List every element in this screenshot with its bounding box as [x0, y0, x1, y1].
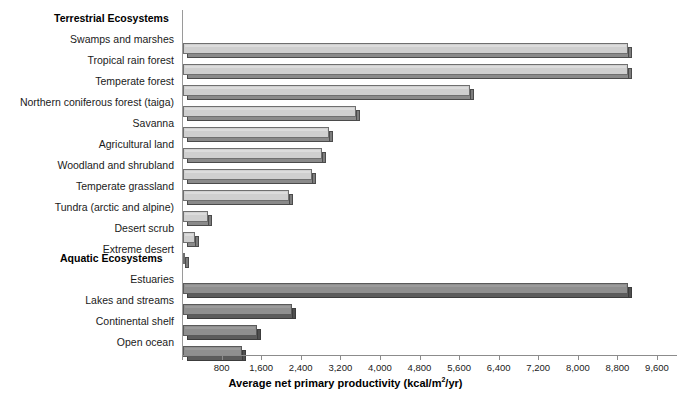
bar-highlight: [185, 234, 193, 236]
x-tick: [578, 355, 579, 360]
bar-highlight: [185, 306, 290, 308]
bar-front-face: [183, 211, 208, 222]
x-tick: [261, 355, 262, 360]
bar-front-face: [183, 85, 470, 96]
category-label: Temperate forest: [0, 75, 174, 87]
x-tick-label: 7,200: [526, 362, 550, 373]
category-label-column: Terrestrial EcosystemsSwamps and marshes…: [0, 0, 182, 355]
x-tick-label: 8,000: [566, 362, 590, 373]
plot-area: [182, 10, 677, 355]
bar: [183, 283, 628, 294]
bar-highlight: [185, 327, 255, 329]
x-tick-origin: [182, 355, 183, 360]
x-axis-title-tail: /yr): [445, 377, 462, 389]
bar-front-face: [183, 106, 356, 117]
bar-highlight: [185, 171, 310, 173]
x-tick-label: 4,000: [368, 362, 392, 373]
bar-side-face: [322, 152, 326, 163]
category-label: Open ocean: [0, 336, 174, 348]
bar-bottom-face: [187, 54, 632, 58]
bar: [183, 127, 329, 138]
x-tick-label: 3,200: [328, 362, 352, 373]
bar-side-face: [257, 329, 261, 340]
x-tick: [222, 355, 223, 360]
bar-front-face: [183, 127, 329, 138]
bar-bottom-face: [187, 75, 632, 79]
category-label: Tundra (arctic and alpine): [0, 201, 174, 213]
bar: [183, 85, 470, 96]
bar: [183, 43, 628, 54]
bar-side-face: [329, 131, 333, 142]
bar-bottom-face: [187, 201, 293, 205]
category-label: Lakes and streams: [0, 294, 174, 306]
bar-side-face: [470, 89, 474, 100]
x-tick: [617, 355, 618, 360]
bar: [183, 148, 322, 159]
bar-highlight: [185, 348, 240, 350]
category-label: Woodland and shrubland: [0, 159, 174, 171]
x-tick: [657, 355, 658, 360]
bar-front-face: [183, 253, 185, 264]
x-tick: [301, 355, 302, 360]
bar-front-face: [183, 169, 312, 180]
bar-side-face: [185, 257, 189, 268]
x-tick-label: 1,600: [249, 362, 273, 373]
bar-side-face: [208, 215, 212, 226]
bar-side-face: [628, 68, 632, 79]
bar-highlight: [185, 129, 327, 131]
bar: [183, 106, 356, 117]
x-tick-label: 6,400: [487, 362, 511, 373]
bar-bottom-face: [187, 315, 296, 319]
bar: [183, 211, 208, 222]
x-tick: [380, 355, 381, 360]
group-heading-aquatic: Aquatic Ecosystems: [0, 252, 174, 264]
bar-side-face: [292, 308, 296, 319]
bar: [183, 232, 195, 243]
bar-front-face: [183, 190, 289, 201]
x-tick: [499, 355, 500, 360]
category-label: Agricultural land: [0, 138, 174, 150]
bar-highlight: [185, 285, 626, 287]
bar-side-face: [356, 110, 360, 121]
bar: [183, 64, 628, 75]
bar-highlight: [185, 213, 206, 215]
x-axis-line: [182, 355, 677, 356]
bar: [183, 190, 289, 201]
x-tick: [420, 355, 421, 360]
bar-bottom-face: [187, 357, 246, 361]
bar-bottom-face: [187, 138, 333, 142]
bar-front-face: [183, 64, 628, 75]
bar-side-face: [289, 194, 293, 205]
bar-front-face: [183, 148, 322, 159]
bar-bottom-face: [187, 180, 316, 184]
bar: [183, 253, 185, 264]
bar: [183, 304, 292, 315]
category-label: Swamps and marshes: [0, 33, 174, 45]
x-axis-title: Average net primary productivity (kcal/m…: [0, 377, 691, 389]
bar-front-face: [183, 43, 628, 54]
bar-side-face: [312, 173, 316, 184]
bar-front-face: [183, 304, 292, 315]
bar-front-face: [183, 232, 195, 243]
bar-highlight: [185, 87, 468, 89]
category-label: Temperate grassland: [0, 180, 174, 192]
bar-bottom-face: [187, 294, 632, 298]
x-tick-label: 9,600: [645, 362, 669, 373]
bar-highlight: [185, 66, 626, 68]
x-tick-label: 800: [214, 362, 230, 373]
category-label: Desert scrub: [0, 222, 174, 234]
x-tick: [538, 355, 539, 360]
bar-bottom-face: [187, 336, 261, 340]
x-tick: [459, 355, 460, 360]
bar: [183, 169, 312, 180]
bar-bottom-face: [187, 117, 360, 121]
bar-bottom-face: [187, 159, 326, 163]
bar-side-face: [628, 47, 632, 58]
x-tick-label: 2,400: [289, 362, 313, 373]
category-label: Savanna: [0, 117, 174, 129]
category-label: Northern coniferous forest (taiga): [0, 96, 174, 108]
bar-highlight: [185, 150, 320, 152]
group-heading-terrestrial: Terrestrial Ecosystems: [0, 12, 174, 24]
category-label: Continental shelf: [0, 315, 174, 327]
bar-bottom-face: [187, 96, 474, 100]
